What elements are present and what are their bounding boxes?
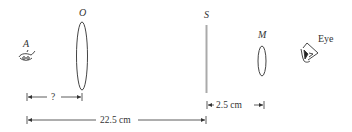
eye-icon [301, 43, 318, 62]
screen-label: S [204, 9, 209, 20]
total-distance-label: 22.5 cm [100, 115, 131, 125]
optics-diagram: A O S M Eye ? 2.5 cm [0, 0, 352, 132]
lamp-icon [19, 50, 35, 60]
eye-label: Eye [318, 33, 334, 44]
objective-label: O [79, 7, 86, 18]
screen-eyepiece-label: 2.5 cm [216, 100, 242, 110]
eyepiece-label: M [257, 29, 267, 40]
eyepiece-lens [258, 46, 266, 76]
source-label: A [22, 38, 30, 49]
objective-lens [77, 22, 88, 90]
unknown-distance-label: ? [51, 92, 55, 102]
